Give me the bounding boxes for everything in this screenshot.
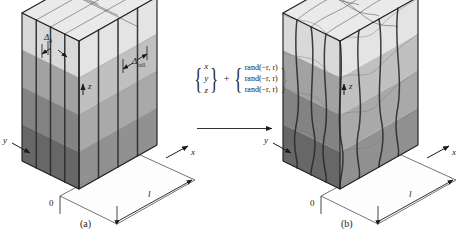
panel-a-drawing — [0, 0, 215, 236]
coordinate-rows: x y z — [203, 62, 209, 95]
figure-root: Δ0 Δcell z y x 0 l (a) { x y z } + { ran… — [0, 0, 476, 236]
coordinate-vector: { x y z } — [191, 62, 222, 95]
caption-b: (b) — [341, 219, 353, 229]
length-label-b: l — [409, 190, 412, 199]
coord-z: z — [204, 86, 208, 95]
axis-label-y-a: y — [3, 136, 7, 145]
axis-label-z-b: z — [349, 82, 353, 91]
panel-a-svg — [0, 0, 215, 236]
origin-label-a: 0 — [49, 199, 54, 208]
axis-label-x-b: x — [452, 148, 456, 157]
length-label-a: l — [148, 190, 151, 199]
plus-operator: + — [224, 74, 230, 84]
panel-b-drawing — [261, 0, 476, 236]
axis-x-arrow-a — [166, 146, 188, 158]
delta-0-label: Δ0 — [44, 33, 52, 44]
delta-cell-label: Δcell — [132, 57, 145, 68]
panel-a-regular-lattice: Δ0 Δcell z y x 0 l (a) — [0, 0, 215, 236]
origin-label-b: 0 — [310, 199, 315, 208]
axis-label-z-a: z — [88, 82, 92, 91]
coord-x: x — [204, 62, 208, 71]
delta-0-subscript: 0 — [49, 38, 52, 44]
panel-b-perturbed-lattice: z y x 0 l (b) — [261, 0, 476, 236]
panel-b-svg — [261, 0, 476, 236]
axis-x-arrow-b — [427, 146, 449, 158]
left-brace-open: { — [194, 66, 202, 91]
coord-y: y — [204, 74, 208, 83]
axis-label-x-a: x — [191, 148, 195, 157]
axis-label-y-b: y — [264, 136, 268, 145]
caption-a: (a) — [80, 219, 91, 229]
right-brace-open: { — [235, 66, 243, 91]
left-brace-close: } — [210, 66, 218, 91]
delta-cell-subscript: cell — [137, 62, 145, 68]
